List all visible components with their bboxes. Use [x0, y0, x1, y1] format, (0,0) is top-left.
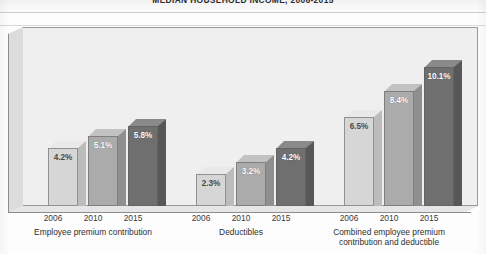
bar-value-label: 8.4%	[384, 96, 414, 105]
bar-side-face	[306, 141, 314, 206]
bar-side-face	[78, 141, 86, 206]
bar-side-face	[158, 119, 166, 206]
group-label-combined-line1: Combined employee premium	[309, 227, 469, 238]
bar-g2-2015[interactable]: 4.2%	[276, 148, 306, 206]
plot-left-wall	[8, 27, 23, 213]
header-rule-bottom	[0, 25, 486, 26]
bar-g2-2006[interactable]: 2.3%	[196, 174, 226, 206]
bar-value-label: 4.2%	[276, 153, 306, 162]
bar-value-label: 10.1%	[424, 72, 454, 81]
plot-area: 4.2% 5.1% 5.8% 2.3% 3.2%	[8, 27, 478, 213]
bar-g3-2015[interactable]: 10.1%	[424, 67, 454, 206]
year-label-g1-2015: 2015	[113, 213, 153, 223]
chart-title: MEDIAN HOUSEHOLD INCOME, 2006-2015	[0, 0, 486, 5]
bar-g1-2015[interactable]: 5.8%	[128, 126, 158, 206]
group-label-deductibles: Deductibles	[181, 227, 301, 238]
bar-front-face	[384, 91, 414, 206]
axis-labels: 2006 2010 2015 Employee premium contribu…	[0, 213, 486, 254]
year-label-g3-2010: 2010	[369, 213, 409, 223]
bar-value-label: 5.1%	[88, 141, 118, 150]
year-label-g2-2015: 2015	[261, 213, 301, 223]
bar-value-label: 4.2%	[48, 153, 78, 162]
group-label-employee-premium: Employee premium contribution	[13, 227, 173, 238]
bar-value-label: 2.3%	[196, 179, 226, 188]
bar-side-face	[414, 84, 422, 206]
bar-side-face	[118, 129, 126, 206]
chart-screenshot: MEDIAN HOUSEHOLD INCOME, 2006-2015 4.2% …	[0, 0, 486, 254]
bar-value-label: 3.2%	[236, 167, 266, 176]
bar-front-face	[424, 67, 454, 206]
bar-value-label: 5.8%	[128, 131, 158, 140]
year-label-g1-2006: 2006	[33, 213, 73, 223]
header-rule-top	[0, 12, 486, 13]
bar-value-label: 6.5%	[344, 122, 374, 131]
bar-side-face	[454, 60, 462, 206]
bar-g1-2006[interactable]: 4.2%	[48, 148, 78, 206]
year-label-g3-2015: 2015	[409, 213, 449, 223]
bar-g1-2010[interactable]: 5.1%	[88, 136, 118, 206]
chart-title-clip: MEDIAN HOUSEHOLD INCOME, 2006-2015	[0, 0, 486, 7]
group-label-combined-line2: contribution and deductible	[309, 237, 469, 248]
bar-g3-2010[interactable]: 8.4%	[384, 91, 414, 206]
bar-g2-2010[interactable]: 3.2%	[236, 162, 266, 206]
year-label-g1-2010: 2010	[73, 213, 113, 223]
bar-side-face	[266, 155, 274, 206]
bar-side-face	[374, 110, 382, 206]
year-label-g2-2010: 2010	[221, 213, 261, 223]
bar-g3-2006[interactable]: 6.5%	[344, 117, 374, 206]
year-label-g2-2006: 2006	[181, 213, 221, 223]
year-label-g3-2006: 2006	[329, 213, 369, 223]
